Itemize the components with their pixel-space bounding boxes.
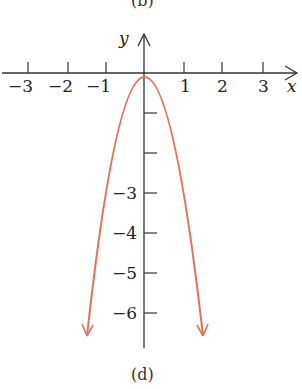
x-tick-label: −3	[8, 78, 33, 95]
y-tick-label: −4	[112, 225, 137, 242]
y-tick-label: −6	[112, 305, 137, 322]
x-axis-label: x	[287, 78, 297, 95]
parabola-curve	[87, 77, 203, 336]
y-axis-label: y	[119, 30, 129, 47]
y-tick-label: −3	[112, 185, 137, 202]
parabola-plot	[0, 0, 302, 389]
x-tick-label: −1	[86, 78, 111, 95]
x-tick-label: 2	[217, 78, 228, 95]
x-tick-label: 3	[258, 78, 269, 95]
y-ticks	[144, 113, 157, 313]
x-ticks	[28, 62, 263, 73]
x-tick-label: −2	[48, 78, 73, 95]
y-tick-label: −5	[112, 265, 137, 282]
figure-caption: (d)	[131, 365, 154, 384]
x-tick-label: 1	[180, 78, 191, 95]
